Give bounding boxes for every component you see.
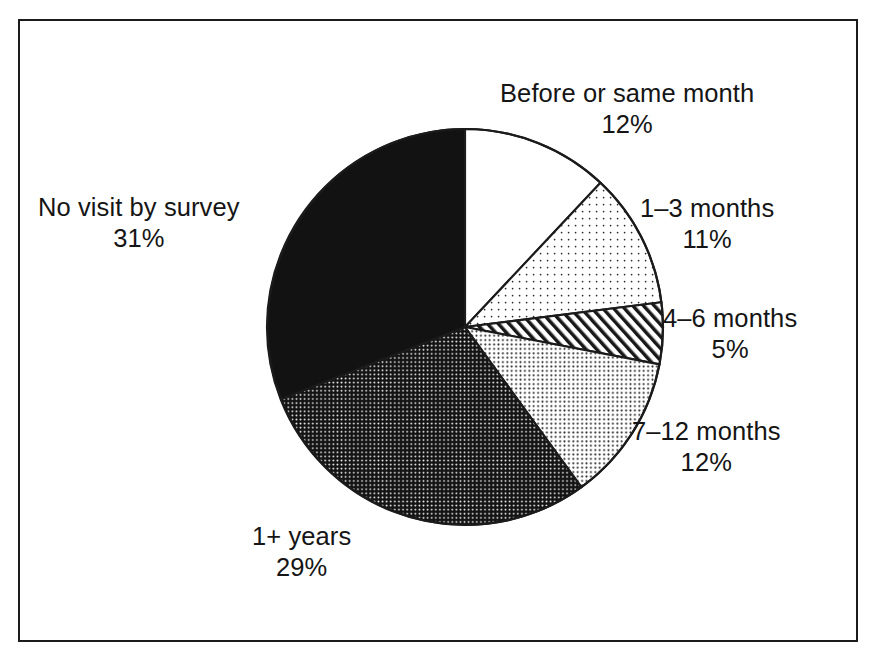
- slice-label-before-or-same-month-text: Before or same month: [500, 78, 754, 109]
- slice-label-4-6-months-text: 4–6 months: [663, 303, 797, 334]
- figure-container: Before or same month 12% 1–3 months 11% …: [0, 0, 869, 661]
- slice-label-before-or-same-month: Before or same month 12%: [500, 78, 754, 140]
- pie-chart-plot-area: Before or same month 12% 1–3 months 11% …: [0, 0, 869, 661]
- slice-value-no-visit-by-survey: 31%: [38, 223, 240, 254]
- slice-value-1-3-months: 11%: [640, 224, 774, 255]
- slice-value-1-plus-years: 29%: [252, 552, 351, 583]
- slice-label-4-6-months: 4–6 months 5%: [663, 303, 797, 365]
- slice-label-7-12-months: 7–12 months 12%: [632, 416, 781, 478]
- slice-label-1-3-months: 1–3 months 11%: [640, 193, 774, 255]
- slice-label-1-3-months-text: 1–3 months: [640, 193, 774, 224]
- slice-value-4-6-months: 5%: [663, 334, 797, 365]
- slice-value-before-or-same-month: 12%: [500, 109, 754, 140]
- slice-label-no-visit-by-survey: No visit by survey 31%: [38, 192, 240, 254]
- clipped-caption-strip: [20, 651, 840, 661]
- slice-label-7-12-months-text: 7–12 months: [632, 416, 781, 447]
- pie-slices: [268, 129, 663, 525]
- slice-label-1-plus-years-text: 1+ years: [252, 521, 351, 552]
- slice-label-no-visit-by-survey-text: No visit by survey: [38, 192, 240, 223]
- slice-value-7-12-months: 12%: [632, 447, 781, 478]
- slice-label-1-plus-years: 1+ years 29%: [252, 521, 351, 583]
